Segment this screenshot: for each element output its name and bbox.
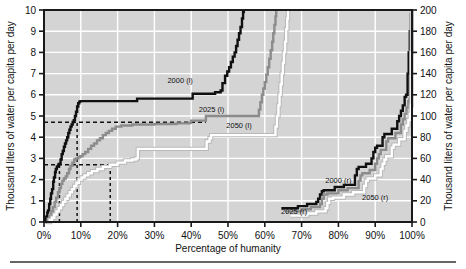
y-tick-label-left: 9 bbox=[30, 26, 36, 37]
y-tick-label-left: 7 bbox=[30, 68, 36, 79]
y-tick-label-right: 180 bbox=[420, 26, 437, 37]
x-tick-label: 90% bbox=[365, 230, 385, 241]
y-tick-label-left: 10 bbox=[25, 5, 37, 16]
y-tick-label-right: 60 bbox=[420, 153, 432, 164]
series-label-2025-l-: 2025 (l) bbox=[199, 105, 225, 114]
figure-container: 2000 (l)2025 (l)2050 (l)2000 (r)2025 (r)… bbox=[0, 0, 466, 269]
y-tick-label-right: 160 bbox=[420, 47, 437, 58]
series-label-2000-l-: 2000 (l) bbox=[167, 76, 193, 85]
chart-canvas: 2000 (l)2025 (l)2050 (l)2000 (r)2025 (r)… bbox=[0, 0, 466, 269]
y-tick-label-right: 0 bbox=[420, 217, 426, 228]
y-tick-label-right: 20 bbox=[420, 195, 432, 206]
y-axis-left: 012345678910 bbox=[25, 5, 44, 228]
x-tick-label: 40% bbox=[181, 230, 201, 241]
y-axis-left-title: Thousand liters of water per capita per … bbox=[5, 21, 16, 211]
y-tick-label-left: 5 bbox=[30, 111, 36, 122]
series-label-2050-r-: 2050 (r) bbox=[362, 193, 389, 202]
x-tick-label: 0% bbox=[37, 230, 52, 241]
y-axis-right-title: Thousand liters of water per capita per … bbox=[443, 21, 454, 211]
y-tick-label-left: 1 bbox=[30, 195, 36, 206]
series-label-2050-l-: 2050 (l) bbox=[226, 121, 252, 130]
x-tick-label: 100% bbox=[399, 230, 425, 241]
y-tick-label-left: 2 bbox=[30, 174, 36, 185]
x-axis: 0%10%20%30%40%50%60%70%80%90%100% bbox=[37, 222, 425, 241]
y-tick-label-right: 140 bbox=[420, 68, 437, 79]
y-tick-label-left: 3 bbox=[30, 153, 36, 164]
y-tick-label-left: 8 bbox=[30, 47, 36, 58]
x-tick-label: 30% bbox=[144, 230, 164, 241]
x-tick-label: 10% bbox=[71, 230, 91, 241]
x-tick-label: 80% bbox=[328, 230, 348, 241]
x-tick-label: 60% bbox=[255, 230, 275, 241]
x-tick-label: 20% bbox=[108, 230, 128, 241]
y-tick-label-left: 4 bbox=[30, 132, 36, 143]
series-label-2025-r-: 2025 (r) bbox=[281, 207, 308, 216]
y-tick-label-right: 200 bbox=[420, 5, 437, 16]
x-tick-label: 70% bbox=[292, 230, 312, 241]
y-tick-label-right: 100 bbox=[420, 111, 437, 122]
x-tick-label: 50% bbox=[218, 230, 238, 241]
y-tick-label-right: 120 bbox=[420, 89, 437, 100]
y-axis-right: 020406080100120140160180200 bbox=[412, 5, 437, 228]
y-tick-label-right: 40 bbox=[420, 174, 432, 185]
y-tick-label-left: 6 bbox=[30, 89, 36, 100]
y-tick-label-right: 80 bbox=[420, 132, 432, 143]
y-tick-label-left: 0 bbox=[30, 217, 36, 228]
x-axis-title: Percentage of humanity bbox=[175, 243, 281, 254]
series-label-2000-r-: 2000 (r) bbox=[325, 176, 352, 185]
